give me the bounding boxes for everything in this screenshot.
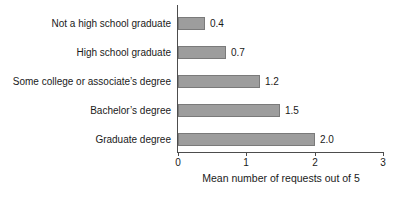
x-tick-2 xyxy=(315,152,316,156)
bar-bachelors-degree xyxy=(178,104,280,117)
bar-row: High school graduate 0.7 xyxy=(0,45,405,60)
bar-row: Some college or associate’s degree 1.2 xyxy=(0,74,405,89)
x-tick-label-1: 1 xyxy=(236,157,256,169)
bar-value-label: 0.7 xyxy=(231,45,245,60)
x-tick-label-3: 3 xyxy=(373,157,393,169)
bar-value-label: 1.5 xyxy=(285,103,299,118)
bar-high-school-graduate xyxy=(178,46,226,59)
x-tick-label-2: 2 xyxy=(305,157,325,169)
x-tick-1 xyxy=(246,152,247,156)
bar-chart: 0 1 2 3 Not a high school graduate 0.4 H… xyxy=(0,0,405,200)
x-tick-3 xyxy=(383,152,384,156)
x-tick-label-0: 0 xyxy=(168,157,188,169)
x-axis-line xyxy=(177,152,384,153)
x-tick-0 xyxy=(178,152,179,156)
bar-row: Not a high school graduate 0.4 xyxy=(0,16,405,31)
bar-row: Bachelor’s degree 1.5 xyxy=(0,103,405,118)
category-label: Bachelor’s degree xyxy=(6,103,171,118)
category-label: Not a high school graduate xyxy=(6,16,171,31)
bar-value-label: 1.2 xyxy=(265,74,279,89)
bar-row: Graduate degree 2.0 xyxy=(0,132,405,147)
bar-some-college-or-associates-degree xyxy=(178,75,260,88)
bar-graduate-degree xyxy=(178,133,315,146)
category-label: Graduate degree xyxy=(6,132,171,147)
bar-value-label: 0.4 xyxy=(210,16,224,31)
category-label: Some college or associate’s degree xyxy=(6,74,171,89)
category-label: High school graduate xyxy=(6,45,171,60)
x-axis-title: Mean number of requests out of 5 xyxy=(178,172,384,185)
bar-value-label: 2.0 xyxy=(320,132,334,147)
bar-not-a-high-school-graduate xyxy=(178,17,205,30)
